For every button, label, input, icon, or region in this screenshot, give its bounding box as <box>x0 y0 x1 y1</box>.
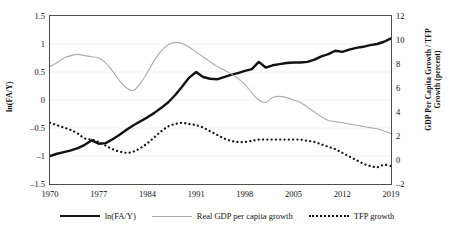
y-left-tick-label: –1 <box>19 151 45 161</box>
series-line-2 <box>50 123 391 167</box>
y-left-tick-label: –0.5 <box>19 123 45 133</box>
y-right-tick-label: 0 <box>396 155 422 165</box>
legend-swatch-line-icon <box>152 216 192 217</box>
x-tick-label: 1984 <box>127 189 167 199</box>
legend-label: ln(FA/Y) <box>105 211 136 221</box>
x-tick-label: 1970 <box>30 189 70 199</box>
x-tick-label: 2012 <box>322 189 362 199</box>
y-right-tick-label: 2 <box>396 131 422 141</box>
y-right-tick-label: 6 <box>396 83 422 93</box>
y-right-tick-label: 12 <box>396 11 422 21</box>
series-canvas <box>50 16 391 184</box>
x-tick-label: 1977 <box>79 189 119 199</box>
x-tick-label: 2019 <box>371 189 411 199</box>
plot-area <box>49 15 392 185</box>
y-left-tick-label: –1.5 <box>19 179 45 189</box>
chart-figure: ln(FA/Y) GDP Per Capita Growth / TFP Gro… <box>0 0 454 232</box>
x-tick-label: 1991 <box>176 189 216 199</box>
y-axis-left-title: ln(FA/Y) <box>5 62 14 132</box>
legend-label: Real GDP per capita growth <box>197 211 293 221</box>
x-tick-label: 2005 <box>274 189 314 199</box>
y-axis-right-title: GDP Per Capita Growth / TFP Growth (perc… <box>424 24 443 134</box>
legend-label: TFP growth <box>354 211 395 221</box>
series-line-0 <box>50 38 391 156</box>
y-right-tick-label: 10 <box>396 35 422 45</box>
y-left-tick-label: 1 <box>19 39 45 49</box>
legend-item-2: TFP growth <box>309 211 395 221</box>
y-right-tick-label: 8 <box>396 59 422 69</box>
chart-legend: ln(FA/Y) Real GDP per capita growth TFP … <box>0 206 454 226</box>
y-left-tick-label: 0 <box>19 95 45 105</box>
legend-swatch-line-icon <box>60 215 100 217</box>
y-left-tick-label: 1.5 <box>19 11 45 21</box>
series-line-1 <box>50 42 391 133</box>
legend-item-1: Real GDP per capita growth <box>152 211 293 221</box>
legend-item-0: ln(FA/Y) <box>60 211 136 221</box>
y-right-tick-label: 4 <box>396 107 422 117</box>
legend-swatch-dotted-icon <box>309 215 349 217</box>
x-tick-label: 1998 <box>225 189 265 199</box>
y-left-tick-label: 0.5 <box>19 67 45 77</box>
y-right-tick-label: –2 <box>396 179 422 189</box>
